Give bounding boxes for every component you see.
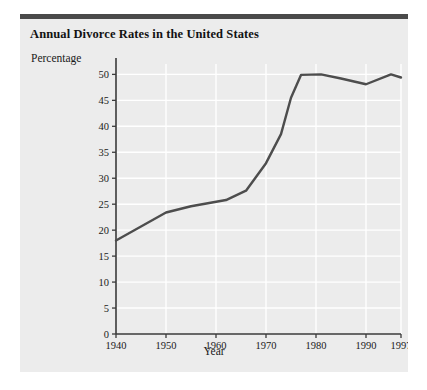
y-tick-label: 50 bbox=[99, 69, 110, 80]
y-tick-label: 40 bbox=[99, 121, 110, 132]
y-tick-label: 10 bbox=[99, 277, 110, 288]
y-tick-label: 30 bbox=[99, 173, 110, 184]
y-tick-label: 0 bbox=[104, 329, 109, 340]
line-chart-svg: 0510152025303540455019401950196019701980… bbox=[20, 14, 408, 372]
figure-canvas: Annual Divorce Rates in the United State… bbox=[0, 0, 427, 390]
y-tick-label: 20 bbox=[99, 225, 110, 236]
y-tick-label: 25 bbox=[99, 199, 110, 210]
y-tick-label: 45 bbox=[99, 95, 110, 106]
y-tick-label: 5 bbox=[104, 303, 109, 314]
x-axis-label: Year bbox=[20, 345, 408, 357]
y-tick-label: 35 bbox=[99, 147, 110, 158]
chart-card: Annual Divorce Rates in the United State… bbox=[20, 14, 408, 372]
y-tick-label: 15 bbox=[99, 251, 110, 262]
plot-area: 0510152025303540455019401950196019701980… bbox=[20, 14, 408, 372]
